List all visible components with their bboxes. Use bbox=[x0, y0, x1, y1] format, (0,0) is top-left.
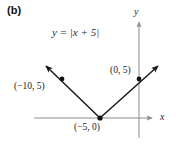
vertex-point-label: (−5, 0) bbox=[74, 123, 100, 133]
curve-left-arm bbox=[46, 66, 100, 118]
y-intercept-point-label: (0, 5) bbox=[110, 66, 131, 76]
y-intercept-point-dot bbox=[137, 77, 142, 82]
vertex-point-dot bbox=[97, 115, 102, 120]
left-arm-point-dot bbox=[60, 77, 65, 82]
left-arm-point-label: (−10, 5) bbox=[14, 82, 45, 92]
x-axis-label: x bbox=[160, 112, 164, 122]
y-axis-label: y bbox=[134, 7, 138, 17]
part-label: (b) bbox=[7, 5, 21, 16]
absolute-value-graph-figure: (b) y = |x + 5| y x (−10, 5) (0, 5) (−5,… bbox=[0, 0, 176, 144]
equation-label: y = |x + 5| bbox=[52, 27, 99, 38]
